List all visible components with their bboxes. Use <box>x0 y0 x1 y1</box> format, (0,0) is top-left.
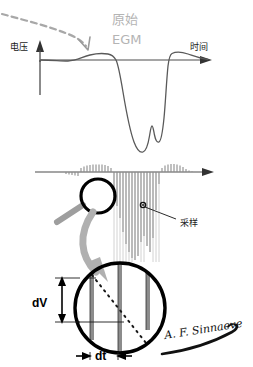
egm-sampling-figure: 原始 EGM 电压 时间 <box>0 0 253 367</box>
voltage-axis <box>36 40 44 95</box>
magnifier-icon <box>57 179 115 222</box>
magnified-detail-panel: dV dt <box>32 263 165 363</box>
original-egm-panel: 原始 EGM 电压 时间 <box>2 12 212 152</box>
egm-annotation-line2: EGM <box>112 32 142 47</box>
time-axis-label: 时间 <box>190 41 208 52</box>
sample-bars-faint <box>114 184 159 262</box>
sample-point-callout <box>140 202 176 219</box>
egm-waveform-trace <box>41 52 208 152</box>
sampled-time-axis <box>35 168 214 176</box>
dv-label: dV <box>32 296 47 310</box>
egm-annotation-line1: 原始 <box>112 12 138 27</box>
dt-label: dt <box>95 349 106 363</box>
author-signature: A. F. Sinnaeve <box>162 317 244 354</box>
signature-text: A. F. Sinnaeve <box>162 317 243 342</box>
time-axis <box>40 56 212 64</box>
dv-dimension <box>58 276 66 324</box>
sample-label: 采样 <box>180 217 198 228</box>
voltage-axis-label: 电压 <box>10 41 28 52</box>
